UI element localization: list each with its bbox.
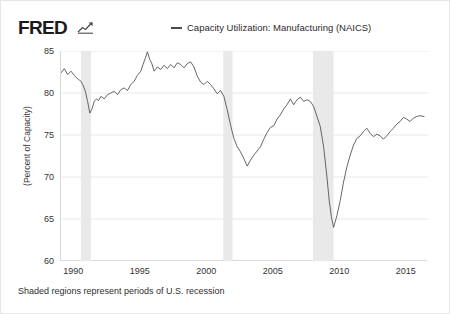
recession-band [313,51,334,261]
legend-series-label: Capacity Utilization: Manufacturing (NAI… [187,22,371,33]
y-axis-tick-label: 75 [20,130,54,140]
x-axis-tick-label: 1995 [117,266,163,276]
plot-area [60,51,427,261]
recession-note: Shaded regions represent periods of U.S.… [18,286,225,296]
fred-chart-mark-icon [77,20,94,33]
x-axis-tick-label: 2010 [316,266,362,276]
x-axis-tick-label: 2000 [183,266,229,276]
recession-band [223,51,232,261]
x-axis-tick-label: 2015 [383,266,429,276]
y-axis-tick-label: 70 [20,172,54,182]
chart-header: FRED Capacity Utilization: Manufacturing… [1,1,450,43]
x-axis-tick-label: 2005 [250,266,296,276]
series-canvas [61,51,428,261]
x-axis-ticks: 199019952000200520102015 [1,266,450,280]
y-axis-tick-label: 60 [20,256,54,266]
chart-legend: Capacity Utilization: Manufacturing (NAI… [171,22,371,33]
x-axis-tick-label: 1990 [50,266,96,276]
y-axis-tick-label: 65 [20,214,54,224]
legend-color-swatch [171,27,182,29]
y-axis-tick-label: 85 [20,46,54,56]
recession-band [81,51,91,261]
series-line [61,52,424,228]
fred-chart-card: FRED Capacity Utilization: Manufacturing… [0,0,450,314]
y-axis-tick-label: 80 [20,88,54,98]
